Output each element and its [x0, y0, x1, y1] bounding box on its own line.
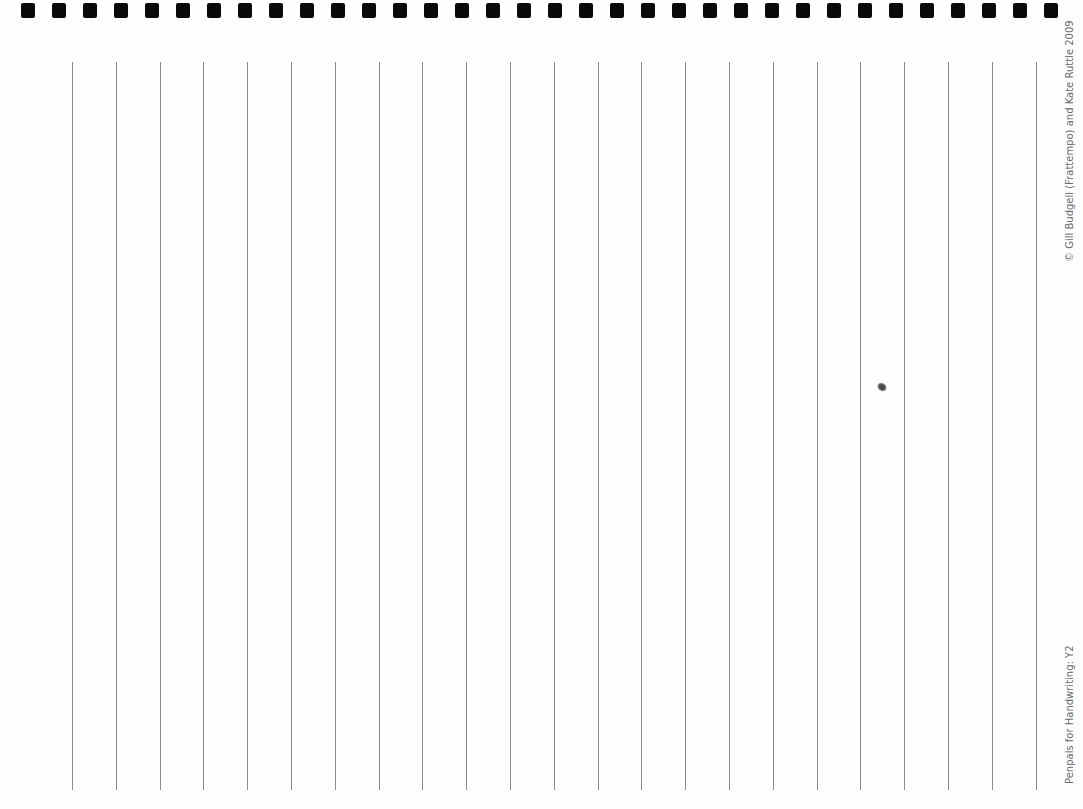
ruled-line [641, 62, 642, 790]
ruled-line [335, 62, 336, 790]
binding-hole [238, 3, 252, 18]
binding-hole [920, 3, 934, 18]
binding-hole [269, 3, 283, 18]
binding-hole [827, 3, 841, 18]
ruled-line [422, 62, 423, 790]
binding-hole [393, 3, 407, 18]
ruled-writing-area [0, 62, 1083, 790]
binding-hole [207, 3, 221, 18]
binding-hole [1013, 3, 1027, 18]
ruled-line [948, 62, 949, 790]
ruled-line [729, 62, 730, 790]
ruled-line [116, 62, 117, 790]
binding-hole [145, 3, 159, 18]
binding-hole [300, 3, 314, 18]
ruled-line [291, 62, 292, 790]
binding-holes-strip [0, 0, 1083, 22]
ruled-line [466, 62, 467, 790]
binding-hole [703, 3, 717, 18]
ruled-line [685, 62, 686, 790]
binding-hole [951, 3, 965, 18]
binding-hole [889, 3, 903, 18]
ruled-line [203, 62, 204, 790]
ruled-line [1036, 62, 1037, 790]
binding-hole [455, 3, 469, 18]
ruled-line [773, 62, 774, 790]
ruled-line [379, 62, 380, 790]
binding-hole [796, 3, 810, 18]
copyright-notice: © Gill Budgell (Frattempo) and Kate Rutt… [1064, 20, 1075, 262]
binding-hole [114, 3, 128, 18]
binding-hole [610, 3, 624, 18]
ruled-line [992, 62, 993, 790]
binding-hole [486, 3, 500, 18]
ruled-line [817, 62, 818, 790]
footer-title: Penpals for Handwriting: Y2 [1064, 645, 1075, 784]
ruled-line [160, 62, 161, 790]
worksheet-page: © Gill Budgell (Frattempo) and Kate Rutt… [0, 0, 1083, 809]
binding-hole [641, 3, 655, 18]
ruled-line [510, 62, 511, 790]
ruled-line [72, 62, 73, 790]
binding-hole [858, 3, 872, 18]
ruled-line [904, 62, 905, 790]
binding-hole [517, 3, 531, 18]
binding-hole [1044, 3, 1058, 18]
binding-hole [424, 3, 438, 18]
binding-hole [982, 3, 996, 18]
binding-hole [21, 3, 35, 18]
binding-hole [176, 3, 190, 18]
binding-hole [579, 3, 593, 18]
ruled-line [598, 62, 599, 790]
ruled-line [247, 62, 248, 790]
binding-hole [765, 3, 779, 18]
binding-hole [52, 3, 66, 18]
binding-hole [362, 3, 376, 18]
binding-hole [672, 3, 686, 18]
ruled-line [860, 62, 861, 790]
binding-hole [734, 3, 748, 18]
binding-hole [83, 3, 97, 18]
ruled-line [554, 62, 555, 790]
binding-hole [331, 3, 345, 18]
binding-hole [548, 3, 562, 18]
